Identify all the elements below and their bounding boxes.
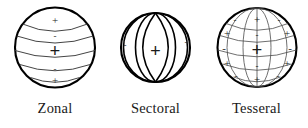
tesseral-sign-r5c1: - [235, 71, 238, 81]
tesseral-sign-r4c3: + [284, 57, 290, 69]
zonal-sign-4: - [54, 64, 57, 74]
tesseral-sign-r4c2: - [256, 61, 259, 71]
tesseral-sign-r5c2: + [254, 73, 260, 85]
tesseral-sign-r5c3: - [277, 71, 280, 81]
zonal-sign-1: + [52, 14, 58, 26]
tesseral-sign-r2c2: - [256, 30, 259, 40]
sectoral-caption: Sectoral [108, 99, 203, 117]
zonal-sign-5: + [52, 74, 58, 86]
tesseral-sign-r2c3: + [284, 27, 290, 39]
spherical-harmonics-figure: + - + - + Zonal - + - Sectoral [0, 0, 308, 128]
zonal-sphere-graphic: + - + - + [0, 0, 110, 100]
tesseral-caption: Tesseral [205, 99, 308, 117]
zonal-caption: Zonal [0, 99, 110, 117]
tesseral-sign-r1c3: - [278, 15, 281, 25]
tesseral-sphere-graphic: - + - + - + - + - + - + - + - [205, 0, 308, 100]
tesseral-sign-r1c2: + [254, 13, 260, 25]
panel-sectoral: - + - Sectoral [108, 0, 203, 128]
tesseral-sign-r1c1: - [234, 15, 237, 25]
tesseral-sign-r3c1: - [222, 42, 226, 54]
zonal-sign-2: - [54, 31, 57, 41]
panel-tesseral: - + - + - + - + - + - + - + - Tesseral [205, 0, 308, 128]
sectoral-sign-right: - [185, 37, 188, 47]
tesseral-sign-r4c1: + [224, 57, 230, 69]
sectoral-sign-left: - [124, 40, 127, 50]
zonal-sign-3: + [50, 40, 61, 61]
tesseral-sign-r2c1: + [224, 27, 230, 39]
sectoral-sphere-graphic: - + - [108, 0, 203, 100]
tesseral-sign-r3c2: + [252, 39, 263, 60]
sectoral-sign-center: + [150, 40, 161, 61]
tesseral-sign-r3c3: - [288, 42, 292, 54]
panel-zonal: + - + - + Zonal [0, 0, 110, 128]
